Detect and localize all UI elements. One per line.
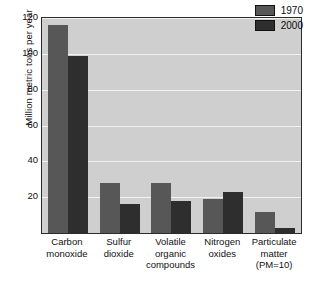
x-axis-tick-label-line: (PM=10)	[242, 259, 306, 271]
bar-1970-1	[48, 25, 68, 233]
bar-2000-5	[275, 228, 295, 233]
bar-1970-5	[255, 212, 275, 234]
legend-swatch-icon	[255, 20, 275, 31]
bar-group	[146, 18, 198, 233]
chart-legend: 19702000	[255, 5, 303, 31]
y-axis-tick-label: 120	[14, 12, 38, 22]
x-axis-tick-label-line: compounds	[139, 259, 203, 271]
x-axis-tick-label-line: Particulate	[242, 236, 306, 248]
plot-area	[41, 17, 302, 234]
bar-group	[249, 18, 301, 233]
bar-group	[197, 18, 249, 233]
bars-layer	[42, 18, 301, 233]
y-axis-tick-label: 60	[14, 120, 38, 130]
bar-1970-3	[151, 183, 171, 233]
bar-group	[94, 18, 146, 233]
y-axis-tick-label: 40	[14, 156, 38, 166]
x-axis-tick-label: Particulatematter(PM=10)	[242, 236, 306, 271]
bar-2000-1	[68, 56, 88, 233]
y-axis-tick-label: 100	[14, 48, 38, 58]
legend-item-2000: 2000	[255, 20, 303, 31]
x-axis-tick-label-line: matter	[242, 248, 306, 260]
bar-2000-2	[120, 204, 140, 233]
legend-label: 2000	[281, 21, 303, 31]
bar-group	[42, 18, 94, 233]
legend-swatch-icon	[255, 5, 275, 16]
y-axis-tick-label: 80	[14, 84, 38, 94]
legend-item-1970: 1970	[255, 5, 303, 16]
bar-1970-4	[203, 199, 223, 233]
bar-2000-4	[223, 192, 243, 233]
bar-2000-3	[171, 201, 191, 233]
legend-label: 1970	[281, 6, 303, 16]
y-axis-tick-label: 20	[14, 191, 38, 201]
bar-chart: Million metric tons per year 20406080100…	[0, 0, 311, 293]
x-axis-tick-labels: CarbonmonoxideSulfurdioxideVolatileorgan…	[41, 236, 302, 291]
bar-1970-2	[100, 183, 120, 233]
y-axis-tick-labels: 20406080100120	[14, 17, 38, 232]
